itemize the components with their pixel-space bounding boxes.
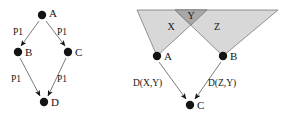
edge-label-b-d: P1 [11,74,21,84]
node-c-dot [64,48,72,56]
node-label-c: C [75,46,82,58]
left-node-group: A B C D [14,7,83,108]
node-label-a: A [49,7,57,19]
region-label-x: X [167,21,175,32]
node-label-b: B [25,46,32,58]
edge-ra-rc [159,62,186,99]
edge-a-b [21,21,39,46]
node-label-ra: A [164,50,172,62]
node-ra-dot [153,52,161,60]
region-label-z: Z [214,21,220,32]
edge-b-d [20,58,40,96]
region-group: X Y Z [137,10,278,56]
diagram-canvas: X Y Z A B C D P1 P1 P1 P1 [0,0,282,122]
region-label-y: Y [187,10,194,21]
right-edge-label-group: D(X,Y) D(Z,Y) [133,78,236,89]
node-d-dot [40,98,48,106]
node-label-rc: C [197,99,204,111]
figure-container: X Y Z A B C D P1 P1 P1 P1 [0,0,282,122]
edge-label-c-d: P1 [57,74,67,84]
edge-label-a-b: P1 [13,27,23,37]
node-label-d: D [51,96,59,108]
edge-label-dzy: D(Z,Y) [208,78,236,89]
node-rc-dot [186,101,194,109]
node-label-rb: B [230,50,237,62]
edge-label-dxy: D(X,Y) [133,78,162,89]
node-rb-dot [219,52,227,60]
node-a-dot [38,11,46,19]
edge-label-a-c: P1 [57,27,67,37]
node-b-dot [14,48,22,56]
